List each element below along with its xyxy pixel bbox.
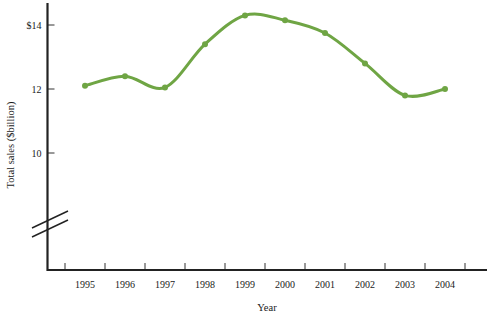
x-axis-tick-group — [65, 263, 465, 270]
y-tick-label: 10 — [32, 148, 42, 159]
x-tick-label: 2002 — [355, 279, 375, 290]
data-point-1996 — [122, 73, 128, 79]
x-tick-label: 1999 — [235, 279, 255, 290]
x-axis-tick-labels: 1995199619971998199920002001200220032004 — [75, 279, 455, 290]
y-axis-break-symbol — [32, 211, 68, 237]
y-axis-title: Total sales ($billion) — [5, 101, 17, 188]
x-tick-label: 2004 — [435, 279, 455, 290]
data-point-2001 — [322, 30, 328, 36]
data-point-1997 — [162, 84, 168, 90]
x-tick-label: 1996 — [115, 279, 135, 290]
x-axis-title: Year — [257, 302, 277, 313]
data-point-2004 — [442, 86, 448, 92]
y-axis-tick-labels: $141210 — [27, 20, 42, 159]
y-tick-label: 12 — [32, 84, 42, 95]
x-tick-label: 2003 — [395, 279, 415, 290]
y-tick-label: $14 — [27, 20, 42, 31]
sales-trend-line — [85, 14, 445, 96]
line-chart-figure: $141210 19951996199719981999200020012002… — [0, 0, 495, 323]
x-tick-label: 2001 — [315, 279, 335, 290]
data-point-1999 — [242, 12, 248, 18]
x-tick-label: 2000 — [275, 279, 295, 290]
data-point-1998 — [202, 41, 208, 47]
x-tick-label: 1997 — [155, 279, 175, 290]
x-tick-label: 1998 — [195, 279, 215, 290]
x-tick-label: 1995 — [75, 279, 95, 290]
chart-canvas: $141210 19951996199719981999200020012002… — [0, 0, 495, 323]
data-point-1995 — [82, 83, 88, 89]
sales-data-point-group — [82, 12, 448, 98]
data-point-2003 — [402, 92, 408, 98]
data-point-2000 — [282, 17, 288, 23]
data-point-2002 — [362, 60, 368, 66]
